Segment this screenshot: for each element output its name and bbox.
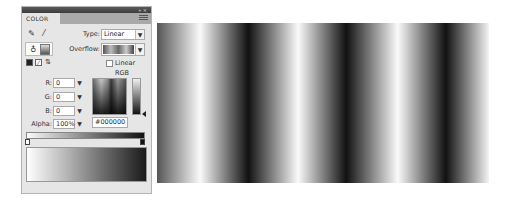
gradient-stop-white[interactable] <box>25 139 30 145</box>
gradient-bar[interactable] <box>26 132 145 139</box>
overflow-select[interactable]: ▼ <box>101 43 145 56</box>
type-value: Linear <box>104 30 124 38</box>
gradient-stop-black[interactable] <box>140 139 145 145</box>
g-label: G: <box>32 92 52 102</box>
chevron-down-icon[interactable]: ▼ <box>76 119 83 129</box>
overflow-label: Overflow: <box>62 44 100 54</box>
pencil-icon[interactable]: ✎ <box>27 29 36 38</box>
hex-input[interactable]: #000000 <box>92 117 128 128</box>
paint-bucket-icon[interactable]: ♁ <box>28 44 38 55</box>
tab-row: COLOR <box>22 13 151 24</box>
stage-gradient-stripes <box>157 23 489 183</box>
chevron-down-icon[interactable]: ▼ <box>76 106 83 116</box>
alpha-label: Alpha: <box>22 119 52 129</box>
chevron-down-icon[interactable]: ▼ <box>76 78 83 88</box>
linear-rgb-checkbox[interactable] <box>106 60 113 67</box>
gradient-preview <box>26 147 147 182</box>
g-input[interactable]: 0 <box>53 92 75 102</box>
b-input[interactable]: 0 <box>53 106 75 116</box>
chevron-down-icon[interactable]: ▼ <box>76 92 83 102</box>
brightness-slider[interactable] <box>132 78 141 115</box>
chevron-down-icon[interactable]: ▼ <box>135 44 144 55</box>
alpha-input[interactable]: 100% <box>53 119 75 129</box>
r-label: R: <box>32 78 52 88</box>
black-white-icon[interactable] <box>26 59 33 66</box>
no-color-icon[interactable]: ⁄ <box>35 59 42 66</box>
color-spectrum[interactable] <box>92 78 127 115</box>
linear-rgb-label: Linear RGB <box>115 58 151 78</box>
brightness-pointer-icon[interactable] <box>142 111 146 117</box>
chevron-down-icon[interactable]: ▼ <box>135 30 144 39</box>
fill-tool-group: ♁ <box>25 42 53 56</box>
stroke-color-icon[interactable]: ⁄ <box>39 29 49 38</box>
fill-color-swatch[interactable] <box>40 44 50 55</box>
type-select[interactable]: Linear ▼ <box>101 29 145 40</box>
swap-colors-icon[interactable]: ⇅ <box>44 58 52 66</box>
overflow-swatch <box>103 45 134 54</box>
tab-color[interactable]: COLOR <box>22 13 60 24</box>
color-panel: » × COLOR ✎ ⁄ ♁ ⁄ ⇅ Type: Linear ▼ Overf… <box>21 6 152 194</box>
type-label: Type: <box>72 29 100 39</box>
panel-menu-icon[interactable] <box>139 15 148 22</box>
b-label: B: <box>32 106 52 116</box>
r-input[interactable]: 0 <box>53 78 75 88</box>
